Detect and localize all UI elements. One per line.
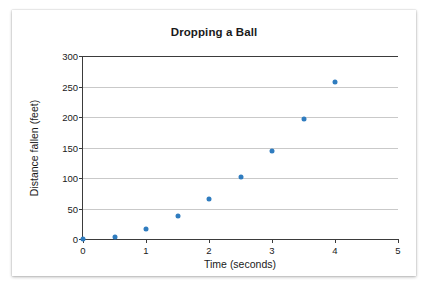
y-gridline	[83, 148, 398, 149]
y-gridline	[83, 56, 398, 57]
y-axis-tick	[79, 117, 83, 118]
x-axis-tick	[272, 239, 273, 243]
x-axis-tick	[398, 239, 399, 243]
x-axis-tick-label: 0	[80, 245, 85, 256]
x-axis-tick	[335, 239, 336, 243]
figure-canvas: Dropping a Ball 050100150200250300012345…	[0, 0, 429, 288]
plot-area: 050100150200250300012345	[82, 56, 398, 240]
data-point	[270, 148, 275, 153]
x-axis-label: Time (seconds)	[82, 258, 398, 270]
data-point	[144, 226, 149, 231]
data-point	[238, 175, 243, 180]
y-axis-tick	[79, 56, 83, 57]
data-point	[301, 116, 306, 121]
y-axis-tick-label: 300	[62, 51, 78, 62]
data-point	[81, 237, 86, 242]
y-axis-tick	[79, 209, 83, 210]
x-axis-tick	[146, 239, 147, 243]
y-axis-tick	[79, 87, 83, 88]
y-axis-tick-label: 250	[62, 81, 78, 92]
x-axis-tick-label: 2	[206, 245, 211, 256]
y-gridline	[83, 87, 398, 88]
y-gridline	[83, 117, 398, 118]
x-axis-tick-label: 1	[143, 245, 148, 256]
data-point	[112, 234, 117, 239]
y-axis-tick	[79, 148, 83, 149]
x-axis-tick-label: 3	[269, 245, 274, 256]
x-axis-tick-label: 5	[395, 245, 400, 256]
chart-card: Dropping a Ball 050100150200250300012345…	[12, 10, 416, 276]
y-axis-tick-label: 0	[73, 234, 78, 245]
y-axis-tick-label: 150	[62, 142, 78, 153]
data-point	[175, 214, 180, 219]
y-axis-tick-label: 100	[62, 173, 78, 184]
y-axis-tick-label: 200	[62, 112, 78, 123]
x-axis-tick	[209, 239, 210, 243]
x-axis-tick-label: 4	[332, 245, 337, 256]
y-axis-tick-label: 50	[67, 203, 78, 214]
y-axis-label: Distance fallen (feet)	[28, 56, 42, 240]
data-point	[207, 197, 212, 202]
y-gridline	[83, 209, 398, 210]
data-point	[333, 79, 338, 84]
y-axis-tick	[79, 178, 83, 179]
chart-title: Dropping a Ball	[12, 26, 416, 38]
